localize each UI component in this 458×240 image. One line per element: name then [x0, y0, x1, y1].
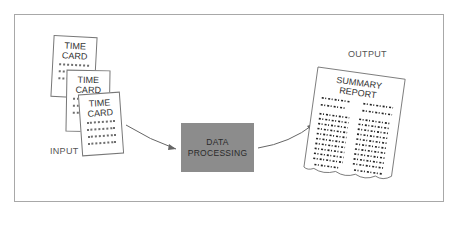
- card-scribble: [59, 63, 89, 69]
- summary-report: SUMMARY REPORT: [303, 67, 403, 184]
- card-title-line2: CARD: [53, 50, 95, 62]
- report-title: SUMMARY REPORT: [315, 72, 403, 104]
- arrow-process-to-output: [258, 124, 314, 148]
- arrowhead-icon: [168, 144, 176, 150]
- process-line2: PROCESSING: [188, 148, 248, 159]
- card-scribble: [88, 141, 116, 147]
- data-processing-box: DATA PROCESSING: [181, 123, 254, 172]
- input-label: INPUT: [50, 146, 79, 156]
- card-scribble: [88, 134, 116, 140]
- arrow-input-to-process: [126, 125, 176, 149]
- card-title-line2: CARD: [80, 107, 121, 120]
- card-scribble: [87, 120, 115, 126]
- output-label: OUTPUT: [348, 49, 387, 59]
- card-scribble: [87, 127, 115, 133]
- time-card-3: TIME CARD: [78, 92, 124, 157]
- process-line1: DATA: [206, 137, 229, 148]
